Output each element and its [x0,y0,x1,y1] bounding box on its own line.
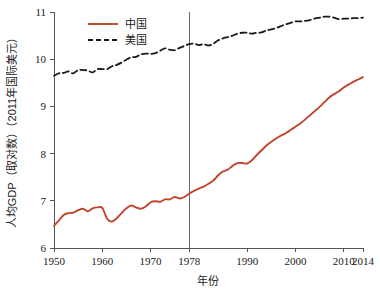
y-tick-label: 8 [41,148,47,160]
y-tick-label: 7 [41,195,47,207]
x-tick-label: 1960 [91,255,114,267]
x-tick-label: 2000 [284,255,307,267]
x-tick-label: 1970 [140,255,163,267]
gdp-per-capita-line-chart: 67891011 1950196019701978199020002010201… [0,0,380,295]
x-tick-label: 1950 [43,255,66,267]
y-tick-label: 6 [41,242,47,254]
y-tick-label: 10 [35,53,47,65]
x-tick-label: 1990 [236,255,259,267]
y-axis-title: 人均GDP（取对数）（2011年国际美元） [5,32,18,229]
chart-screenshot: 67891011 1950196019701978199020002010201… [0,0,380,295]
x-tick-label: 1978 [178,255,201,267]
legend-label-usa: 美国 [125,34,147,46]
x-axis-title: 年份 [197,274,219,287]
x-tick-label: 2014 [352,255,375,267]
legend-label-china: 中国 [125,18,147,30]
y-axis-title-group: 人均GDP（取对数）（2011年国际美元） [5,32,18,229]
y-tick-label: 11 [35,6,46,18]
y-tick-label: 9 [41,100,47,112]
